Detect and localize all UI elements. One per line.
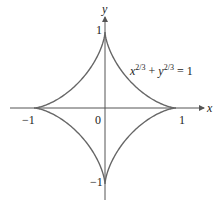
- y-tick-1: 1: [96, 24, 102, 36]
- x-axis-label: x: [207, 102, 212, 114]
- equation-label: x2/3 + y2/3 = 1: [130, 64, 193, 77]
- y-axis-label: y: [102, 3, 107, 15]
- x-tick-0: 0: [95, 114, 101, 126]
- astroid-plot: [0, 0, 217, 206]
- x-tick-1: 1: [179, 114, 185, 126]
- y-tick-neg1: −1: [90, 176, 103, 188]
- x-tick-neg1: −1: [22, 114, 35, 126]
